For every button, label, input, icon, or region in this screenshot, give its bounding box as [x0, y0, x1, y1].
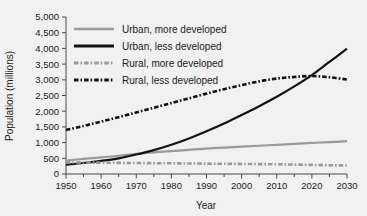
- y-tick-label: 5,000: [35, 11, 59, 22]
- x-tick-label: 2000: [231, 180, 252, 191]
- y-tick-label: 500: [43, 153, 59, 164]
- legend-label-1: Urban, more developed: [122, 24, 227, 35]
- x-tick-label: 2010: [266, 180, 287, 191]
- population-line-chart: 05001,0001,5002,0002,5003,0003,5004,0004…: [0, 0, 367, 216]
- x-tick-label: 1990: [196, 180, 217, 191]
- y-tick-label: 2,500: [35, 90, 59, 101]
- y-tick-label: 4,500: [35, 27, 59, 38]
- legend-label-2: Urban, less developed: [122, 41, 222, 52]
- legend-label-4: Rural, less developed: [122, 75, 218, 86]
- y-tick-label: 1,000: [35, 137, 59, 148]
- x-tick-label: 2020: [301, 180, 322, 191]
- y-axis-title: Population (millions): [4, 51, 15, 141]
- y-tick-label: 3,500: [35, 59, 59, 70]
- x-tick-label: 1970: [126, 180, 147, 191]
- legend-label-3: Rural, more developed: [122, 58, 223, 69]
- x-tick-label: 2030: [336, 180, 357, 191]
- x-tick-label: 1980: [161, 180, 182, 191]
- y-tick-label: 2,000: [35, 106, 59, 117]
- x-tick-label: 1960: [91, 180, 112, 191]
- y-tick-label: 4,000: [35, 43, 59, 54]
- chart-canvas: 05001,0001,5002,0002,5003,0003,5004,0004…: [0, 0, 367, 216]
- y-tick-label: 1,500: [35, 121, 59, 132]
- x-tick-label: 1950: [55, 180, 76, 191]
- y-tick-label: 3,000: [35, 74, 59, 85]
- y-tick-label: 0: [54, 168, 59, 179]
- x-axis-title: Year: [196, 200, 217, 211]
- x-axis-tick-labels: 195019601970198019902000201020202030: [55, 180, 357, 191]
